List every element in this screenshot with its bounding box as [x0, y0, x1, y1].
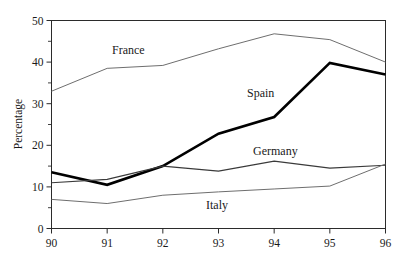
figure-root: 01020304050 90919293949596 FranceSpainGe… — [0, 0, 402, 268]
series-paths — [52, 34, 386, 204]
x-tick-label-96: 96 — [380, 237, 392, 249]
y-tick-label-30: 30 — [32, 98, 44, 110]
series-label-france: France — [112, 43, 145, 57]
series-label-italy: Italy — [206, 198, 228, 212]
series-line-germany — [52, 161, 386, 183]
y-tick-label-50: 50 — [32, 15, 44, 27]
series-line-spain — [52, 63, 386, 185]
x-tick-label-93: 93 — [213, 237, 225, 249]
y-axis-title: Percentage — [12, 99, 25, 149]
svg-text:Percentage: Percentage — [12, 99, 25, 149]
x-tick-label-91: 91 — [101, 237, 113, 249]
y-axis-minor-ticks — [48, 41, 52, 207]
y-tick-label-10: 10 — [32, 181, 44, 193]
x-tick-label-95: 95 — [324, 237, 336, 249]
x-axis-tick-labels: 90919293949596 — [46, 237, 392, 249]
line-chart: 01020304050 90919293949596 FranceSpainGe… — [0, 0, 402, 268]
x-tick-label-92: 92 — [157, 237, 169, 249]
y-axis-tick-labels: 01020304050 — [32, 15, 44, 235]
x-axis-ticks — [52, 229, 386, 234]
series-line-france — [52, 34, 386, 91]
y-tick-label-40: 40 — [32, 56, 44, 68]
series-label-spain: Spain — [247, 86, 274, 100]
y-tick-label-20: 20 — [32, 139, 44, 151]
series-label-germany: Germany — [253, 144, 298, 158]
x-tick-label-94: 94 — [268, 237, 280, 249]
y-tick-label-0: 0 — [38, 223, 44, 235]
x-tick-label-90: 90 — [46, 237, 58, 249]
series-labels: FranceSpainGermanyItaly — [112, 43, 298, 212]
